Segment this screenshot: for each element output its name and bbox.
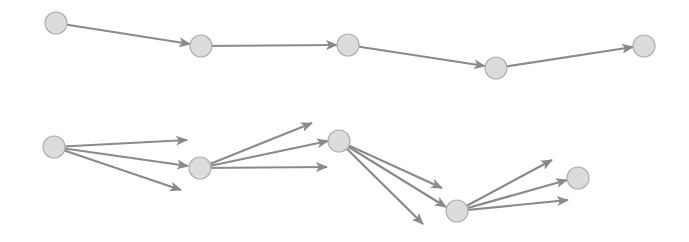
top-node-t2 <box>190 35 212 57</box>
top-edge-arrow <box>348 45 485 66</box>
bottom-edge-arrow <box>54 140 187 147</box>
bottom-edge-arrow <box>200 167 327 168</box>
bottom-node-b2 <box>189 157 211 179</box>
top-edge-arrow <box>496 47 633 68</box>
bottom-fanout-edges <box>54 123 568 224</box>
bottom-edge-arrow <box>339 141 423 224</box>
bottom-node-b3 <box>328 130 350 152</box>
graph-diagram <box>0 0 689 242</box>
bottom-edge-arrow <box>54 147 188 166</box>
bottom-node-b1 <box>43 136 65 158</box>
bottom-edge-arrow <box>200 123 312 168</box>
bottom-node-b4 <box>446 200 468 222</box>
top-node-t5 <box>633 35 655 57</box>
bottom-edge-arrow <box>54 147 181 190</box>
top-edge-arrow <box>56 23 190 44</box>
bottom-edge-arrow <box>339 141 446 207</box>
top-node-t4 <box>485 57 507 79</box>
bottom-edge-arrow <box>200 141 328 168</box>
bottom-edge-arrow <box>339 141 442 188</box>
top-edge-arrow <box>201 45 337 46</box>
top-chain-nodes <box>45 12 655 79</box>
bottom-node-b5 <box>567 167 589 189</box>
top-node-t1 <box>45 12 67 34</box>
top-node-t3 <box>337 34 359 56</box>
